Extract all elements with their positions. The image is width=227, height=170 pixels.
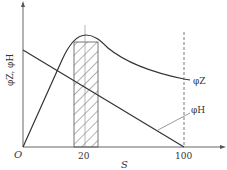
hatched-band (74, 42, 98, 147)
chart-canvas: φZ, φH O 20 100 S φZ φH (0, 0, 227, 170)
y-axis-label: φZ, φH (5, 54, 15, 86)
x-axis-label: S (121, 159, 128, 170)
phi-z-label: φZ (193, 76, 206, 86)
y-axis-arrow-icon (21, 1, 25, 7)
phi-z-curve (23, 35, 190, 147)
origin-label: O (14, 149, 22, 160)
phi-h-label: φH (191, 105, 205, 115)
x-axis-arrow-icon (220, 145, 226, 149)
phi-h-leader (158, 113, 190, 130)
phi-h-line (23, 50, 184, 147)
tick-20: 20 (78, 151, 90, 161)
tick-100: 100 (175, 151, 192, 161)
